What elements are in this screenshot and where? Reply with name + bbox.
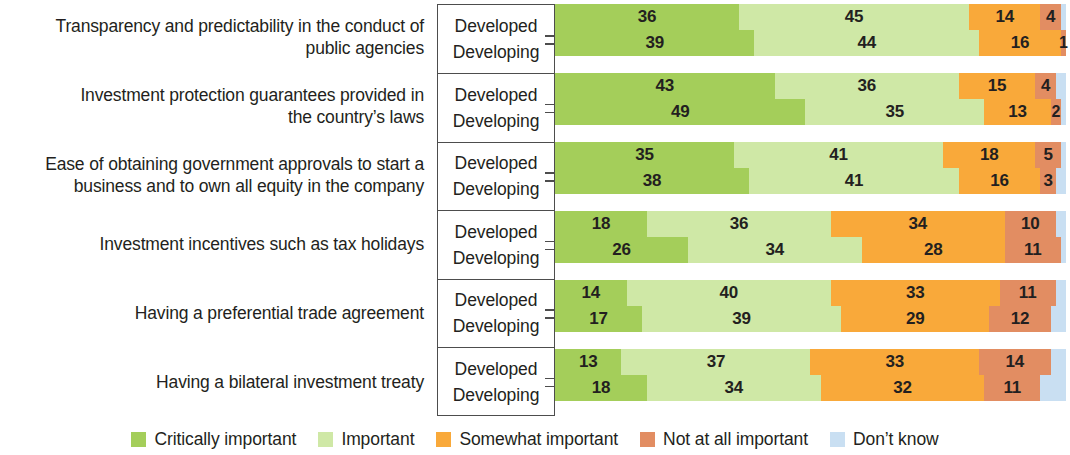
bar-row: 26342811 [555,237,1066,263]
category-label: Having a bilateral investment treaty [0,349,424,415]
axis-subgroup-label: Developing [438,382,554,408]
legend-swatch [318,432,333,447]
legend-swatch [436,432,451,447]
category-label-line: public agencies [0,37,424,59]
bar-row: 4935132 [555,99,1066,125]
bar-segment-value: 12 [1011,309,1030,329]
bar-segment-value: 33 [906,283,925,303]
bar-segment-value: 18 [980,145,999,165]
axis-subgroup-label: Developing [438,313,554,339]
bar-segment-value: 35 [886,102,905,122]
category-label-column: Transparency and predictability in the c… [0,0,432,418]
bar-segment: 29 [841,306,989,332]
axis-group: DevelopedDeveloping [438,142,554,210]
bar-segment: 32 [821,375,985,401]
category-label: Transparency and predictability in the c… [0,4,424,70]
bar-segment: 34 [688,237,862,263]
bar-segment: 14 [979,349,1051,375]
bar-segment-value: 39 [645,33,664,53]
axis-group: DevelopedDeveloping [438,210,554,278]
bar-segment: 39 [555,30,754,56]
legend-label: Somewhat important [459,429,618,450]
legend-label: Not at all important [663,429,808,450]
bar-segment [1056,280,1066,306]
bar-segment-value: 35 [635,145,654,165]
legend-item[interactable]: Not at all important [640,429,808,450]
bar-segment-value: 16 [990,171,1009,191]
bar-segment: 11 [1005,237,1061,263]
axis-subgroup-label: Developing [438,39,554,65]
plot-area: 3645144394416143361544935132354118538411… [555,0,1066,418]
bar-segment: 37 [621,349,810,375]
axis-tick [545,386,554,387]
category-label-line: the country’s laws [0,106,424,128]
bar-segment: 41 [749,168,959,194]
bar-group: 43361544935132 [555,73,1066,125]
bar-segment-value: 34 [725,378,744,398]
bar-row: 3841163 [555,168,1066,194]
legend-item[interactable]: Don’t know [830,429,939,450]
bar-segment-value: 18 [592,214,611,234]
legend-item[interactable]: Critically important [131,429,296,450]
bar-segment-value: 45 [845,7,864,27]
axis-group: DevelopedDeveloping [438,279,554,347]
bar-segment [1040,375,1066,401]
category-label-line: business and to own all equity in the co… [0,175,424,197]
axis-subgroup-label: Developed [438,287,554,313]
legend-item[interactable]: Important [318,429,414,450]
axis-tick [545,112,554,113]
bar-row: 3541185 [555,142,1066,168]
bar-row: 14403311 [555,280,1066,306]
bar-segment [1061,237,1066,263]
bar-segment: 10 [1005,211,1056,237]
bar-segment-value: 4 [1046,7,1055,27]
axis-tick [545,309,554,310]
bar-segment: 4 [1035,73,1055,99]
category-label: Investment protection guarantees provide… [0,73,424,139]
bar-segment: 28 [862,237,1005,263]
bar-row: 3944161 [555,30,1066,56]
bar-segment: 14 [555,280,627,306]
bar-segment-value: 10 [1021,214,1040,234]
bar-segment-value: 14 [1006,352,1025,372]
bar-segment-value: 36 [638,7,657,27]
bar-segment [1056,73,1066,99]
axis-subgroup-label: Developed [438,13,554,39]
legend-label: Important [341,429,414,450]
bar-row: 3645144 [555,4,1066,30]
bar-segment-value: 29 [906,309,925,329]
axis-subgroup-label: Developed [438,356,554,382]
bar-segment: 2 [1051,99,1061,125]
category-label: Having a preferential trade agreement [0,280,424,346]
axis-subgroup-label: Developed [438,82,554,108]
axis-tick [545,35,554,36]
bar-segment: 12 [989,306,1050,332]
bar-segment: 43 [555,73,775,99]
bar-segment: 13 [984,99,1050,125]
bar-segment-value: 11 [1019,283,1037,303]
legend-swatch [131,432,146,447]
legend-item[interactable]: Somewhat important [436,429,618,450]
bar-segment-value: 17 [589,309,608,329]
legend-swatch [830,432,845,447]
bar-segment-value: 3 [1043,171,1052,191]
bar-segment: 34 [647,375,821,401]
bar-segment-value: 18 [592,378,611,398]
category-label-line: Transparency and predictability in the c… [0,15,424,37]
axis-tick [545,249,554,250]
axis-tick [545,180,554,181]
bar-segment-value: 38 [643,171,662,191]
bar-group: 36451443944161 [555,4,1066,56]
bar-segment: 1 [1061,30,1066,56]
bar-segment-value: 11 [1024,240,1042,260]
bar-group: 1836341026342811 [555,211,1066,263]
bar-segment-value: 33 [886,352,905,372]
axis-tick [545,104,554,105]
axis-group: DevelopedDeveloping [438,73,554,141]
bar-segment [1051,306,1066,332]
bar-row: 18343211 [555,375,1066,401]
bar-segment-value: 36 [730,214,749,234]
bar-segment-value: 14 [995,7,1014,27]
bar-segment: 16 [959,168,1041,194]
bar-segment-value: 36 [857,76,876,96]
